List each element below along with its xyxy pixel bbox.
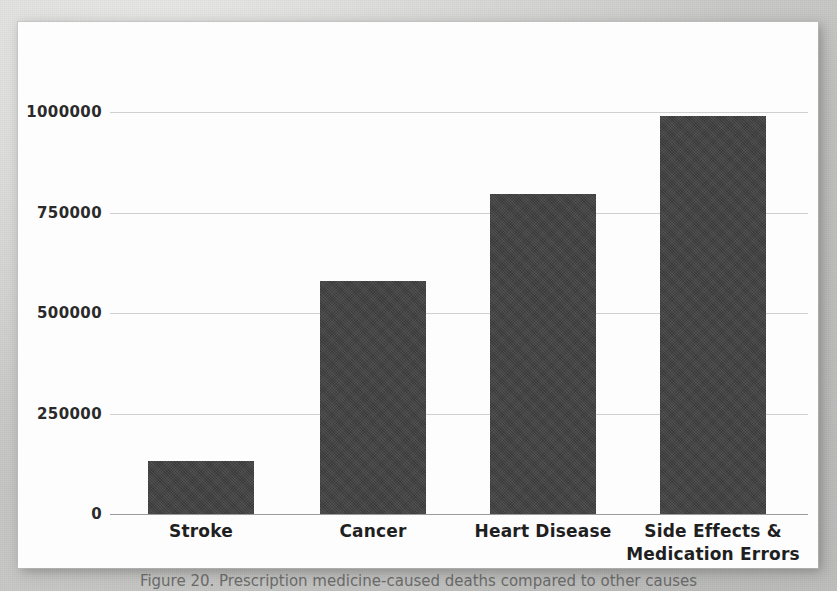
chart-card: 02500005000007500001000000 StrokeCancerH… xyxy=(18,22,818,568)
x-tick-label-line: Side Effects & xyxy=(622,520,804,543)
x-tick-label: Heart Disease xyxy=(452,520,634,543)
figure-caption: Figure 20. Prescription medicine-caused … xyxy=(0,572,837,590)
x-tick-label: Side Effects &Medication Errors xyxy=(622,520,804,566)
y-tick-label: 0 xyxy=(91,505,102,523)
x-tick-label-line: Medication Errors xyxy=(622,543,804,566)
y-tick-label: 500000 xyxy=(37,304,102,322)
x-tick-label: Stroke xyxy=(110,520,292,543)
bar[interactable] xyxy=(148,461,254,514)
bar-chart: 02500005000007500001000000 StrokeCancerH… xyxy=(18,22,818,568)
x-tick-label: Cancer xyxy=(282,520,464,543)
x-tick-label-line: Heart Disease xyxy=(452,520,634,543)
bar[interactable] xyxy=(490,194,596,514)
y-tick-label: 750000 xyxy=(37,204,102,222)
bar[interactable] xyxy=(660,116,766,514)
x-tick-label-line: Cancer xyxy=(282,520,464,543)
y-tick-label: 1000000 xyxy=(26,103,102,121)
bars-layer xyxy=(110,22,808,568)
y-axis: 02500005000007500001000000 xyxy=(18,22,102,568)
x-tick-label-line: Stroke xyxy=(110,520,292,543)
y-tick-label: 250000 xyxy=(37,405,102,423)
bar[interactable] xyxy=(320,281,426,514)
